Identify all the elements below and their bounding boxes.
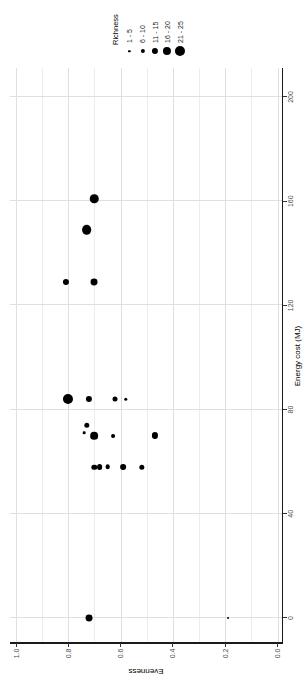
data-point [120, 464, 126, 470]
gridline-minor [94, 68, 95, 643]
data-point [91, 432, 99, 440]
data-point [124, 397, 127, 400]
chart-rotated-stage: 040801201602001.00.80.60.40.20.0 Energy … [0, 0, 305, 688]
y-tick-label: 0.6 [116, 649, 125, 671]
gridline-major [173, 68, 174, 643]
data-point [227, 617, 229, 619]
gridline-minor [147, 68, 148, 643]
plot-panel [10, 68, 282, 643]
gridline-minor [42, 68, 43, 643]
data-point [113, 397, 118, 402]
x-tick-label: 120 [286, 293, 295, 317]
y-tick-mark [225, 644, 226, 648]
y-axis-line [10, 643, 283, 645]
gridline-minor [199, 68, 200, 643]
data-point [63, 394, 73, 404]
legend-title: Richness [111, 14, 120, 45]
y-tick-label: 0.0 [273, 649, 282, 671]
gridline-major [278, 68, 279, 643]
chart-viewport: 040801201602001.00.80.60.40.20.0 Energy … [0, 0, 305, 688]
data-point [90, 194, 99, 203]
x-tick-label: 160 [286, 189, 295, 213]
data-point [86, 615, 93, 622]
data-point [111, 434, 115, 438]
y-axis-title: Evenness [128, 667, 163, 676]
y-tick-mark [16, 644, 17, 648]
gridline-major [10, 200, 282, 201]
legend-key-dot [141, 49, 145, 53]
y-tick-mark [120, 644, 121, 648]
y-tick-label: 0.4 [168, 649, 177, 671]
legend-label: 21 - 25 [176, 21, 185, 43]
legend-label: 1 - 5 [125, 29, 134, 43]
legend-label: 16 - 20 [163, 21, 172, 43]
gridline-major [10, 617, 282, 618]
x-tick-label: 200 [286, 85, 295, 109]
data-point [82, 225, 92, 235]
legend-label: 6 - 10 [138, 25, 147, 43]
data-point [97, 464, 103, 470]
gridline-major [10, 409, 282, 410]
data-point [139, 464, 144, 469]
gridline-major [68, 68, 69, 643]
gridline-major [16, 68, 17, 643]
gridline-major [10, 304, 282, 305]
data-point [152, 433, 158, 439]
legend-key-dot [163, 47, 171, 55]
y-tick-label: 0.2 [221, 649, 230, 671]
y-tick-mark [172, 644, 173, 648]
x-tick-label: 40 [286, 502, 295, 526]
data-point [86, 396, 92, 402]
y-tick-label: 0.8 [64, 649, 73, 671]
gridline-major [10, 513, 282, 514]
gridline-minor [251, 68, 252, 643]
gridline-major [225, 68, 226, 643]
y-tick-mark [277, 644, 278, 648]
y-tick-label: 1.0 [12, 649, 21, 671]
data-point [91, 279, 98, 286]
data-point [105, 465, 110, 470]
legend-key-dot [128, 50, 130, 52]
x-axis-line [282, 68, 284, 644]
x-tick-label: 80 [286, 398, 295, 422]
legend-key-dot [175, 46, 185, 56]
legend-key-dot [152, 48, 158, 54]
data-point [84, 423, 89, 428]
x-axis-title: Energy cost (MJ) [293, 326, 302, 386]
legend-label: 11 - 15 [151, 22, 160, 43]
y-tick-mark [68, 644, 69, 648]
x-tick-label: 0 [286, 606, 295, 630]
gridline-major [121, 68, 122, 643]
gridline-major [10, 96, 282, 97]
data-point [83, 432, 86, 435]
